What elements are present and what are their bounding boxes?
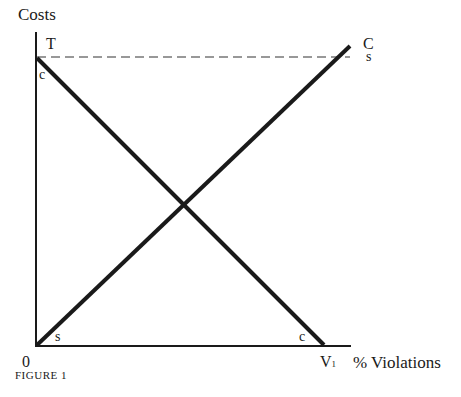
point-label-t: T bbox=[46, 36, 56, 52]
s-line bbox=[37, 46, 350, 345]
origin-label: 0 bbox=[22, 354, 30, 370]
point-label-v1: V1 bbox=[320, 354, 336, 370]
figure-caption: FIGURE 1 bbox=[15, 370, 67, 381]
v1-main: V bbox=[320, 353, 332, 370]
x-axis-label: % Violations bbox=[353, 354, 441, 371]
v1-subscript: 1 bbox=[332, 359, 337, 369]
line-label-c-top: c bbox=[39, 68, 45, 82]
y-axis-label: Costs bbox=[18, 6, 56, 23]
line-label-c-bottom: c bbox=[299, 330, 305, 344]
line-label-s-top: s bbox=[366, 50, 371, 64]
line-label-s-bottom: s bbox=[55, 330, 60, 344]
figure-canvas bbox=[0, 0, 461, 397]
